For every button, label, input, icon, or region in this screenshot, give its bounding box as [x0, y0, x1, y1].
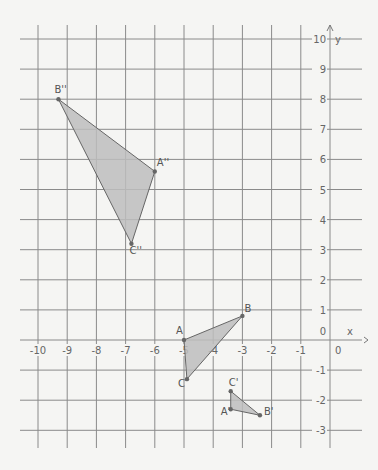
- vertex-label: B': [264, 406, 274, 417]
- y-tick-label: -2: [316, 395, 326, 406]
- vertex-label: C: [178, 378, 185, 389]
- vertex-point: [240, 314, 244, 318]
- vertex-point: [185, 377, 189, 381]
- vertex-point: [56, 97, 60, 101]
- x-tick-label: -1: [296, 345, 306, 356]
- x-tick-label: -2: [267, 345, 277, 356]
- x-tick-label: -8: [91, 345, 101, 356]
- y-tick-label: 0: [320, 326, 326, 337]
- vertex-label: A'': [157, 157, 169, 168]
- x-tick-label: -6: [150, 345, 160, 356]
- y-tick-label: 2: [320, 275, 326, 286]
- vertex-label: B: [244, 303, 251, 314]
- y-tick-label: 8: [320, 94, 326, 105]
- vertex-point: [229, 389, 233, 393]
- x-axis-label: x: [347, 326, 353, 337]
- vertex-label: B'': [54, 84, 66, 95]
- y-tick-label: 9: [320, 64, 326, 75]
- coordinate-plane-diagram: yx-10-9-8-7-6-5-4-3-2-10109876543210-1-2…: [0, 0, 378, 470]
- triangle-apbpcp: [231, 391, 260, 415]
- x-axis-arrow-icon: [364, 337, 368, 343]
- y-tick-label: 5: [320, 185, 326, 196]
- y-axis-label: y: [335, 34, 341, 45]
- vertex-point: [258, 413, 262, 417]
- y-tick-label: -1: [316, 365, 326, 376]
- x-tick-label: -10: [30, 345, 46, 356]
- vertex-label: A: [176, 325, 183, 336]
- y-tick-label: 6: [320, 154, 326, 165]
- y-tick-label: 4: [320, 215, 326, 226]
- y-tick-label: 1: [320, 305, 326, 316]
- coordinate-plane: yx-10-9-8-7-6-5-4-3-2-10109876543210-1-2…: [0, 0, 378, 470]
- grid: [20, 25, 362, 448]
- x-tick-label: -3: [237, 345, 247, 356]
- x-tick-label: 0: [335, 345, 341, 356]
- y-tick-label: 10: [313, 34, 326, 45]
- triangle-appbppcpp: [58, 99, 154, 243]
- vertex-label: C': [229, 377, 239, 388]
- vertex-point: [182, 338, 186, 342]
- y-tick-label: 7: [320, 124, 326, 135]
- vertex-point: [153, 169, 157, 173]
- y-tick-label: 3: [320, 245, 326, 256]
- vertex-label: C'': [129, 245, 141, 256]
- x-tick-label: -7: [121, 345, 131, 356]
- y-tick-label: -3: [316, 425, 326, 436]
- vertex-label: A': [221, 406, 231, 417]
- x-tick-label: -9: [62, 345, 72, 356]
